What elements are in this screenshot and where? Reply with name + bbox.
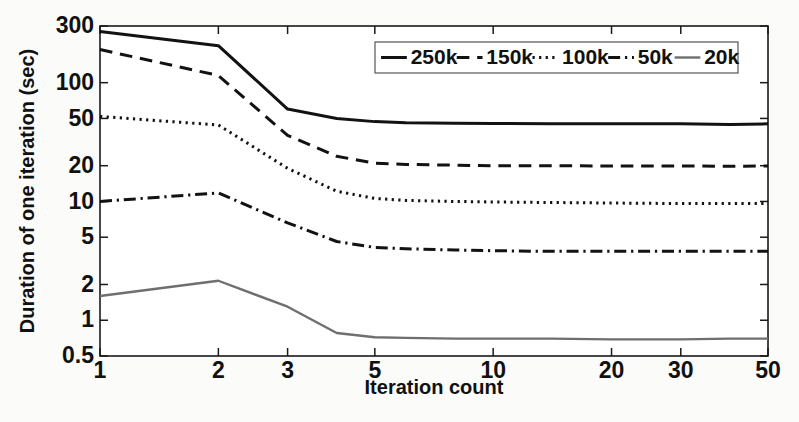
y-tick-label: 2 [81, 271, 94, 297]
legend-label-50k: 50k [638, 45, 673, 68]
plot-background [100, 26, 768, 356]
x-axis-title: Iteration count [365, 376, 504, 398]
x-tick-label: 30 [668, 357, 694, 383]
y-axis-tick-labels: 0.5125102050100300 [56, 12, 95, 368]
legend-label-100k: 100k [562, 45, 609, 68]
y-tick-label: 10 [68, 188, 94, 214]
y-tick-label: 20 [68, 152, 94, 178]
y-tick-label: 5 [81, 223, 94, 249]
y-tick-label: 1 [81, 306, 94, 332]
y-axis-title: Duration of one iteration (sec) [16, 49, 38, 333]
x-tick-label: 50 [755, 357, 781, 383]
y-tick-label: 100 [56, 69, 94, 95]
figure-canvas: 0.5125102050100300 123510203050 Iteratio… [0, 0, 799, 422]
y-tick-label: 300 [56, 12, 94, 38]
chart-legend: 250k150k100k50k20k [375, 42, 740, 73]
legend-label-250k: 250k [411, 45, 458, 68]
x-tick-label: 20 [599, 357, 625, 383]
y-tick-label: 50 [68, 105, 94, 131]
legend-label-20k: 20k [704, 45, 739, 68]
x-tick-label: 1 [94, 357, 107, 383]
y-tick-label: 0.5 [62, 342, 94, 368]
x-tick-label: 3 [281, 357, 294, 383]
x-tick-label: 2 [212, 357, 225, 383]
legend-label-150k: 150k [486, 45, 533, 68]
line-chart: 0.5125102050100300 123510203050 Iteratio… [0, 0, 799, 422]
